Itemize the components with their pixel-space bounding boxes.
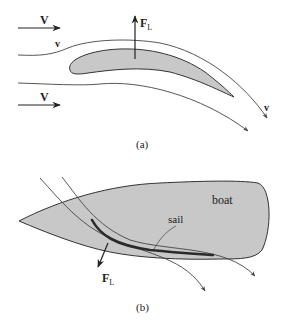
- velocity-label-top: V: [40, 13, 49, 27]
- figure-b: sail boat FL (b): [19, 177, 269, 314]
- lift-force-label-b: FL: [102, 271, 114, 287]
- caption-b: (b): [136, 301, 149, 314]
- velocity-label-bottom: V: [40, 90, 49, 104]
- boat-label: boat: [212, 193, 233, 207]
- lower-streamline: [18, 83, 248, 131]
- figure-a: V V v v FL (a): [18, 13, 269, 151]
- airfoil-shape: [70, 49, 234, 97]
- sail-label: sail: [168, 213, 183, 225]
- lift-force-label: FL: [140, 16, 152, 32]
- lift-diagram: V V v v FL (a) sail boat FL (b): [0, 0, 287, 325]
- caption-a: (a): [136, 138, 149, 151]
- local-velocity-label-trailing: v: [264, 102, 269, 113]
- local-velocity-label-upper: v: [55, 38, 60, 49]
